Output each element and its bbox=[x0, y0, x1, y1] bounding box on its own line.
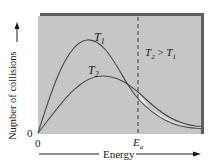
temperature-comparison-label: T2 > T1 bbox=[145, 47, 176, 61]
t2-subscript: 2 bbox=[95, 70, 99, 79]
t1-subscript: 1 bbox=[101, 37, 105, 46]
ea-symbol: E bbox=[133, 136, 140, 148]
plot-area bbox=[38, 16, 201, 134]
x-axis-arrowhead-icon bbox=[193, 152, 201, 157]
ea-subscript: a bbox=[140, 143, 144, 151]
maxwell-boltzmann-diagram: Number of collisions 0 0 Energy T1 T2 T2… bbox=[0, 0, 220, 168]
t1-symbol: T bbox=[94, 30, 101, 44]
y-axis-arrowhead-icon bbox=[15, 22, 20, 29]
plot-canvas bbox=[0, 0, 220, 168]
x-axis-label: Energy bbox=[103, 149, 135, 160]
origin-y-label: 0 bbox=[27, 128, 33, 139]
t2-symbol: T bbox=[88, 63, 95, 77]
y-axis-label: Number of collisions bbox=[7, 51, 18, 140]
curve-t1-label: T1 bbox=[94, 31, 105, 46]
curve-t2-label: T2 bbox=[88, 64, 99, 79]
activation-energy-label: Ea bbox=[133, 137, 143, 151]
compare-operator: > bbox=[155, 46, 167, 58]
origin-x-label: 0 bbox=[35, 138, 41, 149]
compare-t1-sub: 1 bbox=[172, 53, 176, 61]
y-axis-label-text: Number of collisions bbox=[7, 51, 18, 140]
